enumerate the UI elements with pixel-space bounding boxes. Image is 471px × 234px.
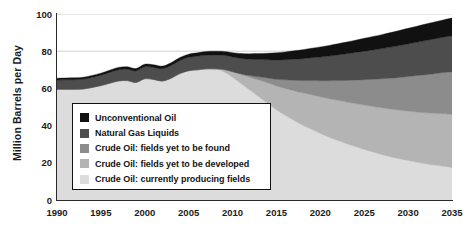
y-tick-label: 80 <box>26 47 52 56</box>
x-tick-label: 2030 <box>398 207 419 218</box>
x-tick-label: 2010 <box>222 207 243 218</box>
x-tick-label: 2005 <box>178 207 199 218</box>
legend-item[interactable]: Unconventional Oil <box>80 110 270 125</box>
x-tick-label: 1995 <box>90 207 111 218</box>
y-tick-label: 100 <box>26 10 52 19</box>
x-tick-label: 2035 <box>441 207 462 218</box>
legend-item[interactable]: Crude Oil: currently producing fields <box>80 172 270 187</box>
legend-swatch-icon <box>80 113 89 122</box>
x-axis-tick-labels: 1990199520002005201020152020202520302035 <box>0 203 471 223</box>
x-tick-label: 1990 <box>46 207 67 218</box>
chart-legend: Unconventional OilNatural Gas LiquidsCru… <box>72 103 271 190</box>
y-axis-tick-labels: 100806040200 <box>24 0 52 234</box>
x-tick-label: 2015 <box>266 207 287 218</box>
legend-item-label: Unconventional Oil <box>95 113 176 123</box>
y-tick-label: 60 <box>26 84 52 93</box>
legend-item-label: Crude Oil: currently producing fields <box>95 174 250 184</box>
y-tick-label: 40 <box>26 121 52 130</box>
legend-item[interactable]: Crude Oil: fields yet to be found <box>80 141 270 156</box>
x-tick-label: 2020 <box>310 207 331 218</box>
legend-swatch-icon <box>80 175 89 184</box>
chart-figure: Million Barrels per Day 100806040200 199… <box>0 0 471 234</box>
y-tick-label: 20 <box>26 158 52 167</box>
x-tick-label: 2025 <box>354 207 375 218</box>
legend-item-label: Crude Oil: fields yet to be developed <box>95 159 249 169</box>
y-axis-title: Million Barrels per Day <box>11 18 23 188</box>
legend-item-label: Crude Oil: fields yet to be found <box>95 143 230 153</box>
x-tick-label: 2000 <box>134 207 155 218</box>
legend-swatch-icon <box>80 129 89 138</box>
legend-item-label: Natural Gas Liquids <box>95 128 179 138</box>
legend-swatch-icon <box>80 159 89 168</box>
legend-item[interactable]: Natural Gas Liquids <box>80 125 270 140</box>
legend-swatch-icon <box>80 144 89 153</box>
legend-item[interactable]: Crude Oil: fields yet to be developed <box>80 156 270 171</box>
